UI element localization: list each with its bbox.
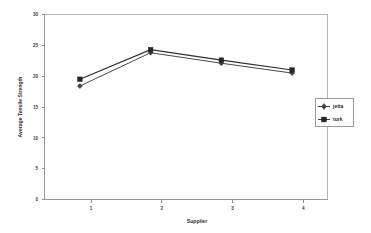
- data-series-layer: [77, 47, 294, 88]
- series-turk: [78, 47, 295, 81]
- legend-label: jetta: [332, 103, 344, 109]
- square-marker-icon: [290, 68, 295, 73]
- x-tick-label: 3: [231, 206, 234, 211]
- y-tick-label: 0: [35, 197, 38, 202]
- y-tick-label: 5: [35, 166, 38, 171]
- y-tick-label: 30: [33, 12, 39, 17]
- x-axis-tick-labels: 1 2 3 4: [90, 206, 305, 211]
- y-axis-title: Average Tensile Strength: [17, 77, 23, 138]
- y-axis-tick-labels: 0 5 10 15 20 25 30: [33, 12, 39, 202]
- series-line-jetta: [80, 53, 292, 86]
- legend: jetta turk: [316, 99, 354, 127]
- square-marker-icon: [219, 58, 224, 63]
- x-tick-label: 4: [302, 206, 305, 211]
- x-tick-label: 1: [90, 206, 93, 211]
- series-line-turk: [80, 50, 292, 80]
- plot-frame: [45, 15, 328, 200]
- square-marker-icon: [148, 47, 153, 52]
- line-chart: 0 5 10 15 20 25 30 Average Tensile Stren…: [0, 0, 371, 233]
- chart-canvas: 0 5 10 15 20 25 30 Average Tensile Stren…: [0, 0, 371, 233]
- series-jetta: [77, 50, 294, 88]
- x-axis-title: Supplier: [187, 218, 207, 224]
- y-tick-label: 20: [33, 74, 39, 79]
- diamond-marker-icon: [77, 84, 82, 89]
- square-marker-icon: [322, 117, 327, 122]
- x-tick-label: 2: [161, 206, 164, 211]
- y-tick-label: 10: [33, 136, 39, 141]
- y-tick-label: 25: [33, 43, 39, 48]
- legend-label: turk: [333, 116, 343, 122]
- square-marker-icon: [78, 77, 83, 82]
- y-tick-label: 15: [33, 105, 39, 110]
